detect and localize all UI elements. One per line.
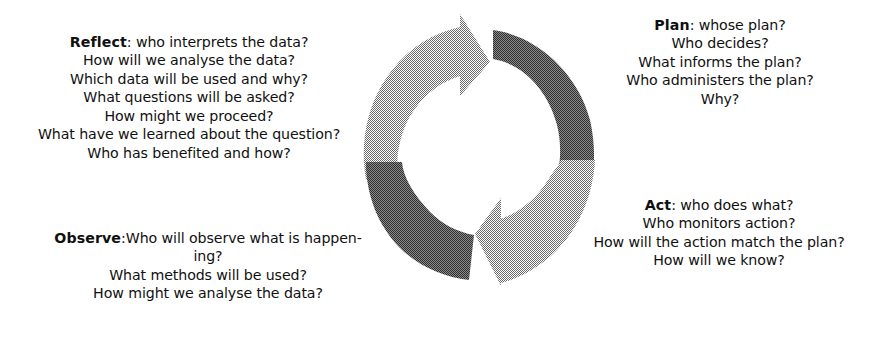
stage-observe-first-line: Observe:Who will observe what is happen- [28,229,388,247]
stage-reflect-label: Reflect [70,34,127,50]
stage-block-act: Act: who does what? Who monitors action?… [566,196,872,270]
stage-plan-line: Who decides? [570,34,870,52]
stage-reflect-first-line-rest: who interprets the data? [136,34,308,50]
cycle-arrows-diagram [362,12,602,288]
stage-reflect-line: Which data will be used and why? [0,70,378,88]
stage-reflect-line: Who has benefited and how? [0,144,378,162]
stage-plan-first-line: Plan: whose plan? [570,16,870,34]
stage-reflect-line: What questions will be asked? [0,88,378,106]
stage-plan-line: Who administers the plan? [570,71,870,89]
stage-reflect-line: How will we analyse the data? [0,51,378,69]
top-arrow-head [364,14,490,180]
stage-observe-line: How might we analyse the data? [28,284,388,302]
stage-reflect-line: What have we learned about the question? [0,125,378,143]
stage-plan-label: Plan [654,17,689,33]
stage-act-first-line: Act: who does what? [566,196,872,214]
stage-act-line: Who monitors action? [566,214,872,232]
bottom-arrow-tail [366,162,480,280]
stage-observe-label: Observe [54,230,121,246]
stage-block-plan: Plan: whose plan? Who decides? What info… [570,16,870,108]
stage-reflect-separator: : [127,34,136,50]
stage-plan-line: What informs the plan? [570,53,870,71]
bottom-arrow-head [475,160,595,288]
stage-act-first-line-rest: who does what? [680,197,793,213]
stage-observe-line: ing? [28,247,388,265]
diagram-canvas: Reflect: who interprets the data? How wi… [0,0,872,345]
stage-act-line: How will the action match the plan? [566,233,872,251]
stage-reflect-first-line: Reflect: who interprets the data? [0,33,378,51]
stage-plan-line: Why? [570,90,870,108]
stage-plan-first-line-rest: whose plan? [699,17,786,33]
stage-plan-separator: : [690,17,699,33]
top-arrow-tail [493,30,594,179]
stage-act-label: Act [645,197,671,213]
stage-block-reflect: Reflect: who interprets the data? How wi… [0,33,378,162]
stage-act-line: How will we know? [566,251,872,269]
stage-block-observe: Observe:Who will observe what is happen-… [28,229,388,303]
stage-act-separator: : [671,197,680,213]
stage-observe-line: What methods will be used? [28,266,388,284]
stage-reflect-line: How might we proceed? [0,107,378,125]
stage-observe-first-line-rest: Who will observe what is happen- [126,230,362,246]
